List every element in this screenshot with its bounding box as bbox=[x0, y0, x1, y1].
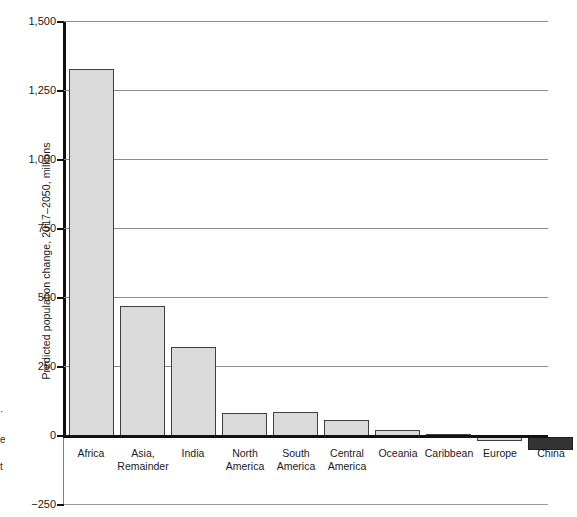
category-label-china-line1: China bbox=[521, 447, 577, 460]
y-tick-label-1000: 1,000 bbox=[12, 154, 56, 165]
bar-india[interactable] bbox=[171, 347, 216, 437]
y-tick-label-750: 750 bbox=[12, 223, 56, 234]
category-label-central-america-line2: America bbox=[314, 460, 380, 473]
y-axis-tick-labels: 1,500 1,250 1,000 750 500 250 0 −250 bbox=[10, 0, 56, 517]
x-axis-category-labels: Africa Asia, Remainder India North Ameri… bbox=[63, 435, 548, 495]
y-tick-label-minus250: −250 bbox=[12, 499, 56, 510]
y-tick-label-250: 250 bbox=[12, 361, 56, 372]
category-label-asia-remainder-line2: Remainder bbox=[107, 460, 179, 473]
bar-south-america[interactable] bbox=[273, 412, 318, 437]
y-tick-label-500: 500 bbox=[12, 292, 56, 303]
edge-text-fragment-3: t bbox=[0, 461, 5, 472]
bar-north-america[interactable] bbox=[222, 413, 267, 437]
plot-area: Africa Asia, Remainder India North Ameri… bbox=[63, 21, 548, 505]
y-tick-label-1250: 1,250 bbox=[12, 85, 56, 96]
y-tick-label-1500: 1,500 bbox=[12, 16, 56, 27]
y-tick-label-0: 0 bbox=[12, 430, 56, 441]
bar-africa[interactable] bbox=[69, 69, 114, 437]
bars-layer bbox=[63, 21, 548, 505]
category-label-china: China bbox=[521, 447, 577, 460]
edge-text-fragment-2: e bbox=[0, 434, 5, 445]
bar-asia-remainder[interactable] bbox=[120, 306, 165, 437]
edge-text-fragment-1: · bbox=[0, 406, 5, 417]
